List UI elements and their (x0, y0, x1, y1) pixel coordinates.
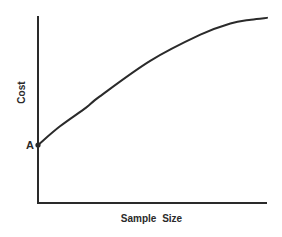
cost-vs-sample-size-chart: A Cost Sample Size (0, 0, 282, 237)
y-axis-title: Cost (16, 81, 27, 104)
cost-curve-line (38, 18, 267, 145)
x-axis-title: Sample Size (121, 213, 183, 224)
point-a-marker (35, 142, 40, 147)
point-a-label: A (26, 139, 34, 151)
